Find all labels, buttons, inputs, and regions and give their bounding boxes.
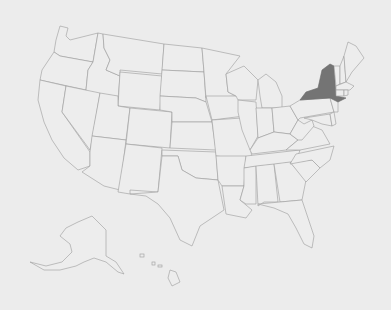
state-new-mexico[interactable] [118,144,162,194]
state-colorado[interactable] [126,108,172,148]
state-kansas[interactable] [170,122,216,150]
us-map [0,0,391,310]
state-north-dakota[interactable] [162,44,204,72]
state-wyoming[interactable] [118,72,162,110]
us-map-svg [0,0,391,310]
state-rhode-island[interactable] [344,90,348,96]
state-connecticut[interactable] [336,90,344,96]
state-arkansas[interactable] [216,156,246,186]
